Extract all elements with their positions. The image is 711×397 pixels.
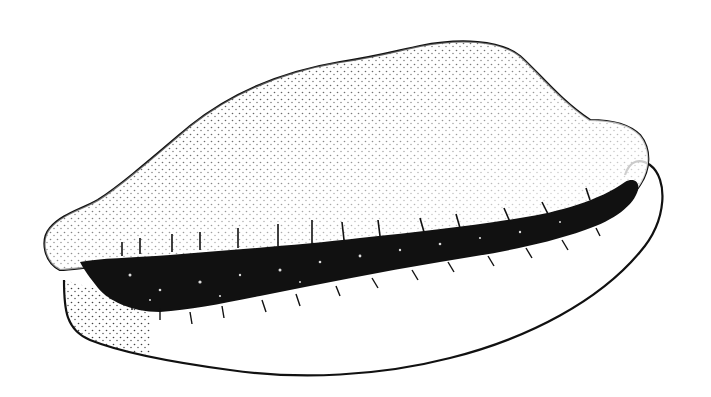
cowrie-shell-illustration (0, 0, 711, 397)
illustration-canvas (0, 0, 711, 397)
